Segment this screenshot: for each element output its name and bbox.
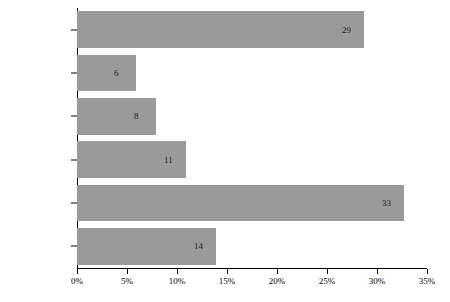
y-axis-tick-mark	[71, 159, 77, 160]
x-axis-tick-label: 25%	[319, 276, 336, 286]
x-axis-tick-label: 0%	[71, 276, 83, 286]
bar-value-label: 11	[164, 155, 173, 165]
x-axis-tick-label: 30%	[369, 276, 386, 286]
bar-row: 6	[0, 55, 450, 91]
x-axis-tick-label: 10%	[169, 276, 186, 286]
x-axis-tick-mark	[427, 269, 428, 274]
bar-value-label: 33	[382, 198, 391, 208]
x-axis-tick-mark	[327, 269, 328, 274]
x-axis-tick-label: 15%	[219, 276, 236, 286]
x-axis-tick-mark	[277, 269, 278, 274]
bar-row: 8	[0, 98, 450, 134]
bar-row: 33	[0, 185, 450, 221]
x-axis-tick-label: 5%	[121, 276, 133, 286]
x-axis-tick-label: 35%	[419, 276, 436, 286]
bar-value-label: 6	[114, 68, 119, 78]
bar-row: 11	[0, 141, 450, 177]
x-axis-tick-mark	[77, 269, 78, 274]
bar	[77, 98, 156, 134]
y-axis-tick-mark	[71, 246, 77, 247]
bar	[77, 55, 136, 91]
bar-value-label: 14	[194, 241, 203, 251]
bar-row: 29	[0, 11, 450, 47]
y-axis-tick-mark	[71, 29, 77, 30]
x-axis-line	[77, 268, 427, 269]
bar-chart: 1433118629 It's just me1–56–1011–1516–20…	[0, 0, 450, 302]
x-axis-tick-label: 20%	[269, 276, 286, 286]
y-axis-tick-mark	[71, 203, 77, 204]
bar-value-label: 29	[342, 25, 351, 35]
x-axis-tick-mark	[177, 269, 178, 274]
y-axis-tick-mark	[71, 73, 77, 74]
x-axis-tick-mark	[127, 269, 128, 274]
bar-value-label: 8	[134, 111, 139, 121]
y-axis-tick-mark	[71, 116, 77, 117]
bar-row: 14	[0, 228, 450, 264]
x-axis-tick-mark	[227, 269, 228, 274]
x-axis-tick-mark	[377, 269, 378, 274]
bar	[77, 185, 404, 221]
bar	[77, 11, 364, 47]
